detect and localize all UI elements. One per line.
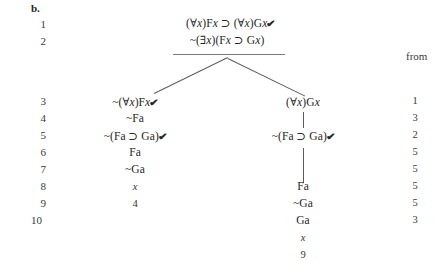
left-branch-row-3: ~(∀x)Fx✔	[78, 95, 192, 109]
left-branch-row-7: ~Ga	[78, 163, 192, 175]
tableau-proof-page: b. 1 2 3 4 5 6 7 8 9 10 (∀x)Fx ⊃ (∀x)Gx✔…	[0, 0, 444, 274]
right-branch-closure-reference: 9	[246, 249, 360, 260]
from-value-6: 5	[409, 180, 421, 191]
line-number-2: 2	[28, 35, 46, 47]
right-branch-formula-8: Fa	[297, 180, 309, 192]
exercise-label: b.	[31, 2, 40, 14]
check-icon: ✔	[326, 131, 335, 142]
left-branch-row-4: ~Fa	[78, 112, 192, 124]
right-branch-row-10: Ga	[246, 214, 360, 226]
premise-line-2: ~(∃x)(Fx ⊃ Gx)	[168, 33, 286, 47]
line-number-6: 6	[28, 146, 46, 158]
line-number-10: 10	[24, 214, 42, 226]
line-number-7: 7	[28, 163, 46, 175]
right-branch-formula-3: (∀x)Gx	[286, 96, 320, 108]
from-value-4: 5	[409, 146, 421, 157]
premise-divider-rule	[173, 54, 285, 55]
left-branch-row-6: Fa	[78, 146, 192, 158]
premise-line-1: (∀x)Fx ⊃ (∀x)Gx✔	[168, 16, 293, 30]
right-branch-formula-9: ~Ga	[293, 197, 313, 209]
left-branch-formula-7: ~Ga	[125, 163, 145, 175]
branch-line-left	[154, 57, 228, 94]
left-branch-formula-6: Fa	[129, 146, 141, 158]
from-value-5: 5	[409, 163, 421, 174]
premise-1-formula: (∀x)Fx ⊃ (∀x)Gx	[186, 17, 267, 29]
from-value-3: 2	[409, 129, 421, 140]
from-value-8: 3	[409, 214, 421, 225]
right-branch-connector-lower	[303, 148, 304, 183]
premise-2-formula: ~(∃x)(Fx ⊃ Gx)	[190, 34, 265, 46]
left-branch-closure-reference: 4	[78, 198, 192, 209]
from-column-header: from	[406, 50, 427, 62]
line-number-9: 9	[28, 197, 46, 209]
right-branch-row-8: Fa	[246, 180, 360, 192]
right-branch-formula-10: Ga	[296, 214, 310, 226]
check-icon: ✔	[150, 97, 159, 108]
line-number-5: 5	[28, 129, 46, 141]
right-branch-formula-5: ~(Fa ⊃ Ga)	[272, 130, 327, 142]
right-branch-closure-mark: x	[246, 232, 360, 243]
branch-line-right	[228, 58, 306, 97]
left-branch-formula-5: ~(Fa ⊃ Ga)	[104, 130, 159, 142]
from-value-7: 5	[409, 197, 421, 208]
right-branch-row-5: ~(Fa ⊃ Ga)✔	[240, 129, 366, 143]
right-branch-row-9: ~Ga	[246, 197, 360, 209]
left-branch-formula-3: ~(∀x)Fx	[112, 96, 150, 108]
line-number-3: 3	[28, 95, 46, 107]
line-number-1: 1	[28, 18, 46, 30]
line-number-8: 8	[28, 180, 46, 192]
left-branch-row-5: ~(Fa ⊃ Ga)✔	[72, 129, 198, 143]
from-value-1: 1	[409, 95, 421, 106]
check-icon: ✔	[158, 131, 167, 142]
right-branch-connector-upper	[303, 112, 304, 128]
from-value-2: 3	[409, 112, 421, 123]
right-branch-row-3: (∀x)Gx	[246, 95, 360, 109]
check-icon: ✔	[267, 18, 276, 29]
line-number-4: 4	[28, 112, 46, 124]
left-branch-formula-4: ~Fa	[126, 112, 144, 124]
left-branch-closure-mark: x	[78, 181, 192, 192]
